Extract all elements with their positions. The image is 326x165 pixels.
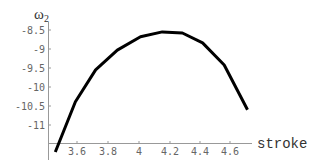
x-tick-label: 4.6 xyxy=(221,146,239,157)
y-tick-label: -11 xyxy=(27,120,45,131)
y-axis-label: ω xyxy=(34,6,44,22)
y-tick-label: -9 xyxy=(33,44,45,55)
x-tick-label: 4 xyxy=(136,146,142,157)
x-tick-label: 4.2 xyxy=(161,146,179,157)
y-tick-label: -10.5 xyxy=(15,101,45,112)
y-tick-label: -10 xyxy=(27,82,45,93)
x-tick-label: 3.8 xyxy=(99,146,117,157)
chart: -8.5 -9 -9.5 -10 -10.5 -11 3.6 3.8 4 4.2… xyxy=(0,0,326,165)
x-tick-label: 3.6 xyxy=(68,146,86,157)
y-tick-label: -9.5 xyxy=(21,63,45,74)
x-axis-label: stroke xyxy=(257,136,307,152)
y-tick-label: -8.5 xyxy=(21,25,45,36)
x-tick-label: 4.4 xyxy=(191,146,209,157)
y-ticks: -8.5 -9 -9.5 -10 -10.5 -11 xyxy=(15,25,51,131)
y-axis-label-subscript: 2 xyxy=(44,13,49,24)
data-line xyxy=(55,32,247,152)
